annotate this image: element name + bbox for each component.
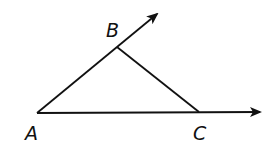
ray-ac <box>37 112 260 113</box>
label-a: A <box>23 122 38 144</box>
label-c: C <box>193 122 207 144</box>
label-b: B <box>106 19 119 41</box>
segment-bc <box>117 47 199 112</box>
triangle-diagram: B A C <box>0 0 267 155</box>
